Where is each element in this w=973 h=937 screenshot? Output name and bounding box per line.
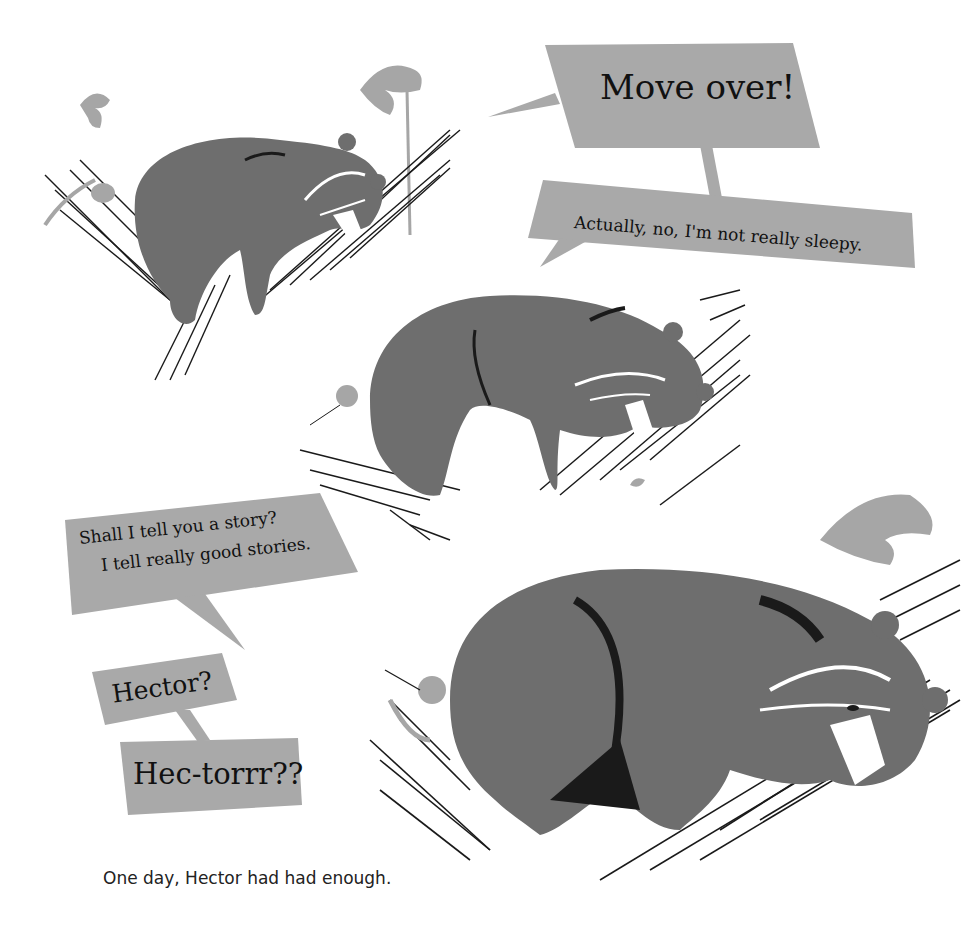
bubble-hec-torrr-text: Hec-torrr??	[133, 757, 303, 791]
bubble-move-over-text: Move over!	[600, 67, 795, 107]
speech-bubble-layer	[0, 0, 973, 937]
page-caption: One day, Hector had had enough.	[103, 868, 391, 888]
